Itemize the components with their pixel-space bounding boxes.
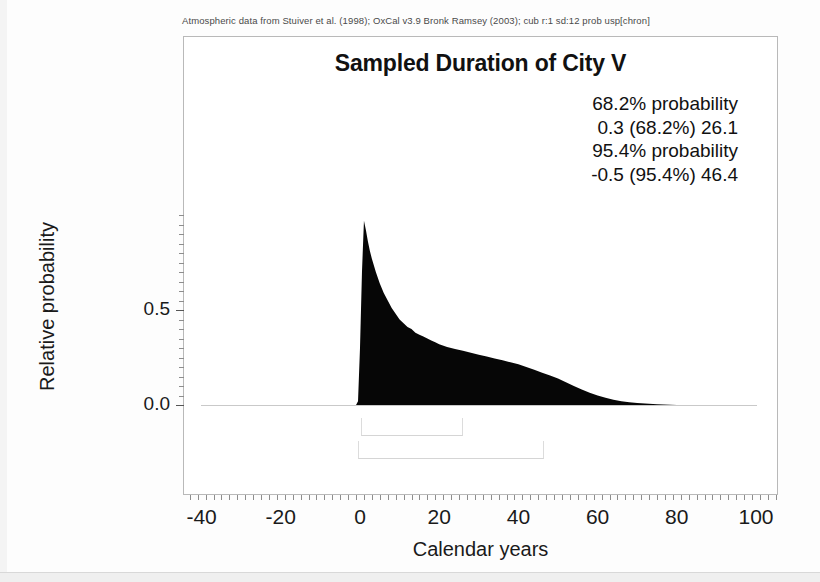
x-axis-baseline [201, 405, 757, 406]
stats-line-95-label: 95.4% probability [591, 139, 738, 163]
x-tick-minor [522, 495, 523, 500]
x-tick-minor [253, 495, 254, 500]
x-tick-minor [712, 495, 713, 500]
y-tick-label-0-5: 0.5 [118, 298, 170, 320]
x-tick-minor [372, 495, 373, 500]
x-tick-minor [459, 495, 460, 500]
chart-title: Sampled Duration of City V [183, 50, 778, 77]
x-tick-minor [316, 495, 317, 500]
y-tick-minor [179, 282, 184, 283]
x-tick-minor [396, 495, 397, 500]
y-axis-ticks [176, 36, 184, 495]
y-tick-label-0-0: 0.0 [118, 393, 170, 415]
x-tick-minor [546, 495, 547, 500]
y-tick-minor [179, 386, 184, 387]
x-tick-minor [578, 495, 579, 500]
x-tick-label: 80 [642, 505, 712, 529]
x-tick-label: 100 [721, 505, 791, 529]
x-tick-minor [752, 495, 753, 500]
y-tick-major [176, 405, 184, 406]
x-axis-tick-labels: -40-20020406080100 [0, 505, 820, 537]
y-tick-minor [179, 320, 184, 321]
x-tick-minor [491, 495, 492, 500]
x-tick-minor [530, 495, 531, 500]
x-tick-minor [198, 495, 199, 500]
x-tick-minor [348, 495, 349, 500]
x-tick-minor [237, 495, 238, 500]
y-tick-major [176, 310, 184, 311]
x-tick-minor [499, 495, 500, 500]
x-tick-minor [427, 495, 428, 500]
x-tick-minor [538, 495, 539, 500]
x-tick-minor [332, 495, 333, 500]
x-tick-minor [309, 495, 310, 500]
x-tick-minor [776, 495, 777, 500]
x-tick-minor [419, 495, 420, 500]
x-tick-minor [356, 495, 357, 500]
x-axis-title: Calendar years [183, 538, 778, 561]
x-tick-label: 40 [483, 505, 553, 529]
x-tick-minor [214, 495, 215, 500]
x-tick-minor [681, 495, 682, 500]
x-tick-minor [602, 495, 603, 500]
x-tick-minor [269, 495, 270, 500]
x-tick-minor [261, 495, 262, 500]
x-tick-minor [617, 495, 618, 500]
stats-line-68-label: 68.2% probability [591, 92, 738, 116]
x-tick-minor [514, 495, 515, 500]
x-tick-minor [301, 495, 302, 500]
x-tick-minor [610, 495, 611, 500]
x-tick-minor [562, 495, 563, 500]
x-tick-minor [206, 495, 207, 500]
x-tick-minor [728, 495, 729, 500]
x-tick-minor [673, 495, 674, 500]
x-tick-minor [689, 495, 690, 500]
y-tick-minor [179, 225, 184, 226]
y-tick-minor [179, 367, 184, 368]
x-tick-minor [554, 495, 555, 500]
x-tick-minor [467, 495, 468, 500]
y-tick-minor [179, 377, 184, 378]
x-tick-minor [245, 495, 246, 500]
page-bottom-edge [0, 572, 820, 582]
y-tick-minor [179, 291, 184, 292]
y-tick-minor [179, 244, 184, 245]
probability-stats: 68.2% probability 0.3 (68.2%) 26.1 95.4%… [591, 92, 738, 186]
x-tick-label: -40 [167, 505, 237, 529]
x-tick-label: 60 [563, 505, 633, 529]
x-tick-minor [483, 495, 484, 500]
x-tick-minor [625, 495, 626, 500]
y-tick-minor [179, 329, 184, 330]
x-tick-minor [435, 495, 436, 500]
y-tick-minor [179, 215, 184, 216]
stats-line-68-range: 0.3 (68.2%) 26.1 [591, 116, 738, 140]
x-tick-label: 0 [325, 505, 395, 529]
x-tick-minor [380, 495, 381, 500]
x-tick-minor [475, 495, 476, 500]
y-tick-minor [179, 253, 184, 254]
x-tick-minor [451, 495, 452, 500]
y-tick-minor [179, 358, 184, 359]
x-tick-minor [760, 495, 761, 500]
x-tick-minor [229, 495, 230, 500]
x-tick-minor [649, 495, 650, 500]
x-tick-minor [364, 495, 365, 500]
x-tick-minor [697, 495, 698, 500]
y-axis-title: Relative probability [36, 187, 59, 427]
x-tick-label: 20 [404, 505, 474, 529]
x-tick-minor [736, 495, 737, 500]
provenance-caption: Atmospheric data from Stuiver et al. (19… [182, 15, 650, 26]
x-tick-minor [285, 495, 286, 500]
x-tick-minor [720, 495, 721, 500]
x-tick-minor [190, 495, 191, 500]
x-tick-minor [594, 495, 595, 500]
y-tick-minor [179, 272, 184, 273]
y-tick-minor [179, 339, 184, 340]
y-tick-minor [179, 348, 184, 349]
x-tick-minor [768, 495, 769, 500]
x-tick-minor [641, 495, 642, 500]
x-tick-minor [443, 495, 444, 500]
y-tick-minor [179, 396, 184, 397]
x-tick-minor [586, 495, 587, 500]
